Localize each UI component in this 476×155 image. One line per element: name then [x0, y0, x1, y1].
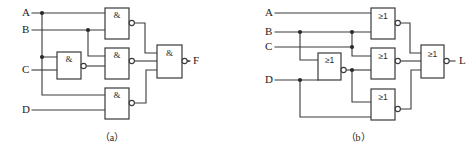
figure-canvas: & & & & & — [0, 0, 476, 155]
gate-nor-mid-label: ≥1 — [379, 51, 388, 61]
gate-nor-bot[interactable]: ≥1 — [371, 89, 400, 120]
output-label-l: L — [459, 54, 466, 66]
gate-nor-top-label: ≥1 — [379, 11, 388, 21]
circuit-b: ≥1 ≥1 ≥1 ≥1 ≥1 — [265, 6, 466, 120]
wire-b-d-branch-to-nor-bot — [300, 80, 371, 117]
wire-b-nor-d-to-nor-bot — [352, 70, 371, 102]
gate-nand-c[interactable]: & — [57, 52, 86, 79]
junction-a — [40, 11, 44, 15]
gate-nand-top[interactable]: & — [105, 8, 134, 39]
wire-b-nor-top-to-out — [400, 23, 421, 53]
input-label-b: B — [22, 23, 29, 35]
wire-b-nor-bot-to-out — [400, 70, 421, 109]
gate-nand-bot-label: & — [113, 90, 120, 100]
inverting-bubble-icon — [182, 58, 187, 63]
inverting-bubble-icon — [395, 106, 400, 111]
junction-a-mid — [40, 55, 44, 59]
junction-b-c-top — [350, 30, 354, 34]
wire-nand-top-to-out — [134, 23, 157, 53]
gate-nor-top[interactable]: ≥1 — [371, 8, 400, 39]
gate-nor-d-label: ≥1 — [325, 55, 334, 65]
inverting-bubble-icon — [129, 20, 134, 25]
input-label-b-b: B — [265, 25, 272, 37]
input-label-a: A — [22, 6, 30, 18]
inverting-bubble-icon — [395, 20, 400, 25]
wire-b-b-branch-to-nor-d — [300, 32, 318, 60]
gate-nand-out-label: & — [166, 48, 173, 58]
junction-b — [86, 28, 90, 32]
output-label-f: F — [193, 54, 199, 66]
gate-nor-bot-label: ≥1 — [379, 92, 388, 102]
junction-b-d — [298, 78, 302, 82]
inverting-bubble-icon — [129, 100, 134, 105]
circuit-a: & & & & & — [22, 6, 199, 119]
wire-a-branch-to-nand-c — [42, 13, 57, 57]
gate-nand-out[interactable]: & — [157, 45, 187, 78]
wire-nand-bot-to-out — [134, 70, 157, 103]
input-label-c: C — [22, 63, 29, 75]
logic-circuit-diagram: & & & & & — [0, 0, 476, 155]
inverting-bubble-icon — [129, 58, 134, 63]
gate-nand-bot[interactable]: & — [105, 88, 134, 119]
inverting-bubble-icon — [341, 67, 346, 72]
input-label-b-d: D — [265, 73, 273, 85]
inverting-bubble-icon — [444, 58, 449, 63]
inverting-bubble-icon — [81, 63, 86, 68]
junction-b-nor-d-out — [350, 68, 354, 72]
junction-b-b — [298, 30, 302, 34]
wire-b-c-to-nor-mid — [352, 47, 371, 56]
inverting-bubble-icon — [395, 58, 400, 63]
caption-a: （a） — [100, 132, 124, 143]
gate-nor-d[interactable]: ≥1 — [318, 53, 346, 80]
input-label-d: D — [22, 103, 30, 115]
gate-nor-out[interactable]: ≥1 — [421, 45, 449, 78]
gate-nand-top-label: & — [113, 10, 120, 20]
input-label-b-c: C — [265, 40, 272, 52]
gate-nor-mid[interactable]: ≥1 — [371, 48, 400, 79]
input-label-b-a: A — [265, 6, 273, 18]
gate-nand-mid-label: & — [113, 50, 120, 60]
gate-nand-c-label: & — [65, 54, 72, 64]
caption-b: （b） — [346, 132, 371, 143]
gate-nor-out-label: ≥1 — [428, 49, 437, 59]
junction-b-c — [350, 45, 354, 49]
gate-nand-mid[interactable]: & — [105, 48, 134, 79]
wire-b-branch-to-nand-mid — [88, 30, 105, 56]
